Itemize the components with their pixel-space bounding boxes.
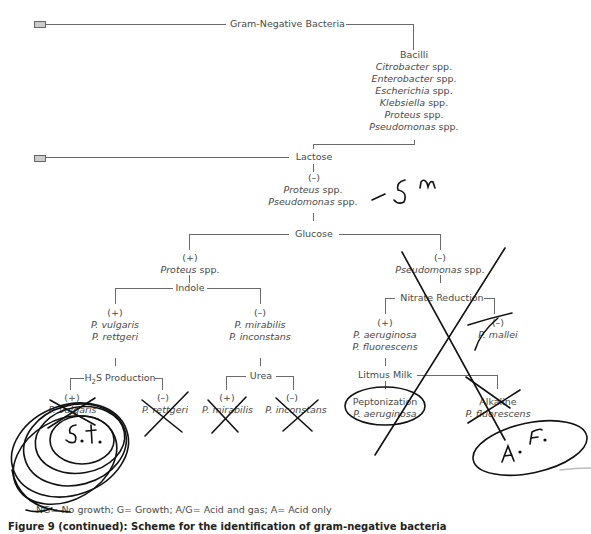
connector-line	[346, 24, 414, 25]
peptonization-label: Peptonization	[350, 396, 420, 408]
connector-line	[189, 234, 289, 235]
indole-positive-organism: P. rettgeri	[75, 331, 155, 343]
pointer-marker-icon	[34, 155, 46, 162]
connector-line	[260, 358, 261, 366]
connector-line	[207, 288, 260, 289]
lactose-organism: Pseudomonas spp.	[253, 196, 373, 208]
lactose-test: Lactose	[284, 151, 344, 163]
connector-line	[46, 24, 226, 25]
h2s-negative-organism: P. rettgeri	[130, 404, 200, 416]
peptonization-organism: P. aeruginosa	[350, 408, 420, 420]
connector-line	[226, 376, 246, 377]
connector-line	[115, 288, 173, 289]
connector-line	[385, 358, 386, 366]
lactose-organism: Proteus spp.	[253, 184, 373, 196]
nitrate-negative-result: (–)	[478, 317, 518, 329]
genus-item: Proteus spp.	[354, 109, 474, 121]
figure-caption: Figure 9 (continued): Scheme for the ide…	[8, 521, 446, 532]
h2s-negative-result: (–)	[143, 392, 183, 404]
glucose-positive-result: (+)	[160, 252, 220, 264]
legend: NG= No growth; G= Growth; A/G= Acid and …	[36, 504, 332, 515]
connector-line	[115, 288, 116, 304]
connector-line	[385, 298, 395, 299]
pointer-marker-icon	[34, 21, 46, 28]
nitrate-positive-organism: P. aeruginosa	[345, 329, 425, 341]
glucose-positive-organism: Proteus spp.	[140, 264, 240, 276]
genus-item: Citrobacter spp.	[354, 61, 474, 73]
connector-line	[497, 375, 498, 389]
urea-positive-result: (+)	[207, 392, 247, 404]
connector-line	[313, 144, 314, 149]
indole-negative-result: (–)	[235, 307, 285, 319]
connector-line	[414, 140, 415, 145]
indole-negative-organism: P. mirabilis	[215, 319, 305, 331]
urea-negative-result: (–)	[272, 392, 312, 404]
h2s-positive-organism: P. vulgaris	[35, 404, 110, 416]
litmus-test: Litmus Milk	[355, 369, 415, 381]
connector-line	[313, 164, 314, 172]
connector-line	[70, 378, 71, 390]
indole-positive-result: (+)	[90, 307, 140, 319]
root-node: Gram-Negative Bacteria	[230, 18, 344, 30]
nitrate-negative-organism: P. mallei	[475, 329, 521, 341]
connector-line	[313, 144, 415, 145]
connector-line	[260, 288, 261, 304]
connector-line	[339, 234, 440, 235]
indole-test: Indole	[172, 282, 208, 294]
connector-line	[276, 376, 293, 377]
connector-line	[385, 298, 386, 314]
connector-line	[293, 376, 294, 390]
connector-line	[226, 376, 227, 390]
connector-line	[46, 157, 289, 158]
indole-negative-organism: P. inconstans	[215, 331, 305, 343]
indole-positive-organism: P. vulgaris	[75, 319, 155, 331]
connector-line	[494, 298, 495, 314]
handwritten-annotations	[0, 0, 591, 534]
genus-item: Escherichia spp.	[354, 85, 474, 97]
bacilli-heading: Bacilli	[354, 49, 474, 61]
glucose-negative-result: (–)	[410, 252, 470, 264]
connector-line	[115, 358, 116, 366]
genus-item: Enterobacter spp.	[354, 73, 474, 85]
urea-positive-organism: P. mirabilis	[195, 404, 260, 416]
nitrate-positive-organism: P. fluorescens	[345, 341, 425, 353]
connector-line	[440, 234, 441, 250]
connector-line	[385, 381, 386, 389]
lactose-result: (–)	[284, 172, 344, 184]
urea-test: Urea	[246, 370, 276, 382]
genus-item: Pseudomonas spp.	[354, 121, 474, 133]
urea-negative-organism: P. inconstans	[262, 404, 330, 416]
nitrate-test: Nitrate Reduction	[400, 292, 484, 304]
connector-line	[189, 234, 190, 250]
alkaline-label: Alkaline	[470, 396, 526, 408]
alkaline-organism: P. fluorescens	[462, 408, 534, 420]
h2s-test: H2S Production	[82, 372, 158, 388]
bacilli-node: Bacilli Citrobacter spp. Enterobacter sp…	[354, 49, 474, 133]
connector-line	[484, 298, 494, 299]
nitrate-positive-result: (+)	[365, 317, 405, 329]
connector-line	[440, 275, 441, 283]
h2s-positive-result: (+)	[52, 392, 92, 404]
glucose-negative-organism: Pseudomonas spp.	[385, 264, 495, 276]
connector-line	[313, 213, 314, 221]
connector-line	[413, 24, 414, 50]
connector-line	[417, 375, 497, 376]
connector-line	[162, 378, 163, 390]
glucose-test: Glucose	[289, 228, 339, 240]
genus-item: Klebsiella spp.	[354, 97, 474, 109]
